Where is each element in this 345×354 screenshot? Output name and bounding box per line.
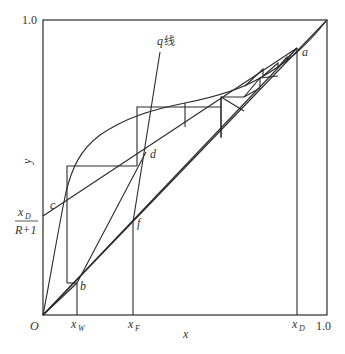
origin-label: O (30, 319, 39, 333)
point-b-label: b (80, 279, 86, 293)
intercept-label: x D R+1 (14, 205, 38, 237)
svg-text:线: 线 (164, 34, 175, 48)
point-d-label: d (150, 147, 157, 161)
svg-text:x: x (17, 205, 24, 219)
point-a-label: a (302, 45, 308, 59)
svg-text:q: q (157, 34, 163, 48)
x-max-label: 1.0 (316, 319, 331, 333)
point-c-label: c (50, 198, 56, 212)
svg-text:x: x (127, 317, 134, 331)
x-axis-label: x (182, 327, 189, 341)
svg-text:W: W (78, 324, 86, 333)
mccabe-thiele-diagram: 1.0 1.0 O x y x W x F x D x D R+1 q 线 a … (0, 0, 345, 354)
svg-text:D: D (298, 324, 305, 333)
stage-staircase (67, 48, 297, 283)
svg-text:D: D (24, 212, 31, 221)
xf-label: x F (127, 317, 140, 333)
svg-text:x: x (291, 317, 298, 331)
y-max-label: 1.0 (22, 13, 37, 27)
xw-label: x W (70, 317, 86, 333)
q-line-label: q 线 (157, 34, 175, 48)
svg-text:F: F (134, 324, 140, 333)
svg-text:R+1: R+1 (14, 223, 36, 237)
point-f-label: f (137, 216, 142, 230)
xd-label: x D (291, 317, 305, 333)
svg-text:x: x (70, 317, 77, 331)
y-axis-label: y (20, 158, 34, 165)
